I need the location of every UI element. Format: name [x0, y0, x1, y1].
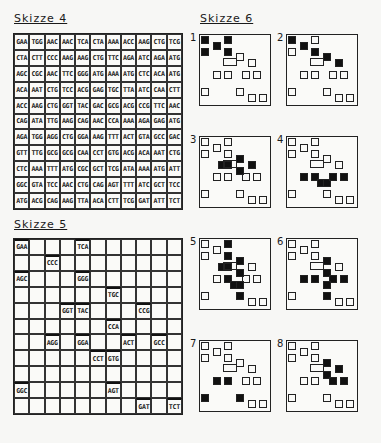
- outline-marker: [224, 354, 232, 362]
- filled-marker: [236, 394, 244, 402]
- s5-codon-cell: TGC: [106, 287, 121, 303]
- outline-marker: [248, 196, 256, 204]
- s5-codon-cell: [136, 239, 151, 255]
- s4-codon-cell: TAC: [75, 98, 90, 114]
- s5-codon-cell: [151, 319, 166, 335]
- s4-codon-cell: AAG: [60, 114, 75, 130]
- s5-codon-cell: [14, 350, 29, 366]
- outline-marker: [242, 71, 250, 79]
- s4-codon-cell: AAA: [121, 114, 136, 130]
- s5-codon-cell: [75, 366, 90, 382]
- outline-marker: [224, 71, 232, 79]
- s5-codon-cell: [121, 319, 136, 335]
- s4-codon-cell: ATG: [14, 193, 29, 209]
- outline-marker: [248, 365, 256, 373]
- s5-codon-cell: [90, 334, 105, 350]
- s5-codon-cell: [45, 239, 60, 255]
- outline-marker: [201, 138, 209, 146]
- outline-marker: [323, 190, 331, 198]
- s5-codon-cell: [14, 366, 29, 382]
- s4-codon-cell: TGC: [106, 82, 121, 98]
- s4-codon-cell: GTG: [106, 145, 121, 161]
- s4-codon-cell: ACG: [121, 98, 136, 114]
- s5-codon-cell: [75, 382, 90, 398]
- s5-codon-cell: [29, 239, 44, 255]
- s4-codon-cell: GGC: [14, 177, 29, 193]
- s4-codon-cell: ATG: [167, 114, 182, 130]
- outline-marker: [288, 48, 296, 56]
- outline-marker: [288, 150, 296, 158]
- s5-codon-cell: [90, 319, 105, 335]
- s4-codon-cell: TCA: [75, 34, 90, 50]
- s4-codon-cell: ATT: [167, 161, 182, 177]
- s5-codon-cell: [75, 319, 90, 335]
- s5-codon-cell: [167, 334, 182, 350]
- s4-codon-cell: ACA: [90, 193, 105, 209]
- s4-codon-cell: CGC: [75, 161, 90, 177]
- s5-codon-cell: [121, 382, 136, 398]
- s4-codon-cell: AGC: [14, 66, 29, 82]
- s5-codon-cell: [29, 255, 44, 271]
- s5-codon-cell: [90, 239, 105, 255]
- filled-marker: [236, 269, 244, 277]
- s4-codon-cell: CTG: [45, 82, 60, 98]
- center-bar: [310, 262, 324, 270]
- s4-codon-cell: GCT: [151, 177, 166, 193]
- s4-codon-cell: CGC: [29, 66, 44, 82]
- outline-marker: [288, 394, 296, 402]
- outline-marker: [311, 138, 319, 146]
- s4-codon-cell: CTC: [14, 161, 29, 177]
- outline-marker: [224, 342, 232, 350]
- outline-marker: [201, 292, 209, 300]
- s4-codon-cell: ATG: [60, 161, 75, 177]
- s5-codon-cell: [14, 303, 29, 319]
- skizze5-title: Skizze 5: [14, 218, 67, 231]
- s4-codon-cell: TCG: [167, 34, 182, 50]
- outline-marker: [201, 240, 209, 248]
- s5-codon-cell: AGT: [106, 382, 121, 398]
- outline-marker: [259, 94, 267, 102]
- s5-codon-cell: CCA: [106, 319, 121, 335]
- s5-codon-cell: GGT: [60, 303, 75, 319]
- s4-codon-cell: TTT: [121, 177, 136, 193]
- skizze6-panel-2: [286, 34, 358, 106]
- s5-codon-cell: [121, 271, 136, 287]
- s5-codon-cell: GGC: [14, 382, 29, 398]
- s4-codon-cell: GAC: [167, 129, 182, 145]
- s4-codon-cell: ACC: [121, 34, 136, 50]
- s4-codon-cell: TTC: [106, 50, 121, 66]
- s5-codon-cell: [45, 350, 60, 366]
- s5-codon-cell: TCA: [75, 239, 90, 255]
- filled-marker: [329, 173, 337, 181]
- s5-codon-cell: [60, 382, 75, 398]
- panel-label: 6: [277, 236, 283, 247]
- outline-marker: [311, 377, 319, 385]
- s4-codon-cell: CAG: [14, 114, 29, 130]
- s5-codon-cell: [14, 398, 29, 414]
- s4-codon-cell: CTA: [90, 34, 105, 50]
- s4-codon-cell: CAG: [90, 177, 105, 193]
- s5-codon-cell: [167, 303, 182, 319]
- s4-codon-cell: ACA: [14, 82, 29, 98]
- outline-marker: [213, 275, 221, 283]
- s5-codon-cell: [167, 366, 182, 382]
- s4-codon-cell: ACG: [75, 82, 90, 98]
- s4-codon-cell: TTC: [60, 66, 75, 82]
- s4-codon-cell: CAA: [151, 82, 166, 98]
- s4-codon-cell: ATC: [136, 82, 151, 98]
- s5-codon-cell: [14, 287, 29, 303]
- outline-marker: [224, 138, 232, 146]
- s4-codon-cell: GCG: [45, 145, 60, 161]
- s4-codon-cell: AAA: [106, 66, 121, 82]
- outline-marker: [300, 377, 308, 385]
- filled-marker: [340, 173, 348, 181]
- s5-codon-cell: [121, 255, 136, 271]
- s5-codon-cell: GGA: [75, 334, 90, 350]
- outline-marker: [213, 71, 221, 79]
- outline-marker: [236, 88, 244, 96]
- s4-codon-cell: ACA: [136, 145, 151, 161]
- s5-codon-cell: GCC: [151, 334, 166, 350]
- s4-codon-cell: GAT: [136, 193, 151, 209]
- outline-marker: [201, 252, 209, 260]
- s4-codon-cell: ATG: [167, 66, 182, 82]
